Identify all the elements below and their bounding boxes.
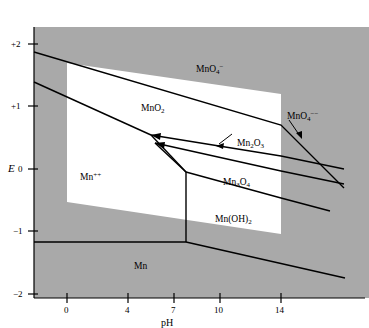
y-tick-label-minus2: −2 [13, 290, 23, 299]
species-label-mnoh2: Mn(OH)2 [215, 215, 252, 226]
y-tick-label-0: 0 [18, 165, 23, 174]
species-label-mn: Mn [134, 262, 147, 272]
x-tick-label-4: 4 [125, 306, 130, 315]
pourbaix-diagram-plot [0, 0, 369, 328]
x-tick-label-10: 10 [214, 306, 223, 315]
x-tick-label-7: 7 [171, 306, 176, 315]
species-label-mno2: MnO2 [141, 104, 165, 115]
species-label-mn2o3: Mn2O3 [237, 139, 264, 150]
species-label-mn3o4: Mn3O4 [223, 178, 250, 189]
x-tick-label-14: 14 [275, 306, 284, 315]
pourbaix-diagram-figure: +2 +1 0 −1 −2 E 0 4 7 10 14 pH MnO4− MnO… [0, 0, 369, 328]
species-label-mno4--: MnO4−− [287, 111, 318, 123]
species-label-mn++: Mn++ [80, 172, 101, 183]
y-tick-label-2: +2 [11, 40, 21, 49]
y-tick-label-1: +1 [11, 102, 21, 111]
x-axis-title: pH [161, 318, 173, 328]
x-tick-label-0: 0 [64, 306, 69, 315]
species-label-mno4-: MnO4− [196, 64, 224, 76]
y-axis-title: E [8, 163, 15, 174]
y-tick-label-minus1: −1 [13, 227, 23, 236]
